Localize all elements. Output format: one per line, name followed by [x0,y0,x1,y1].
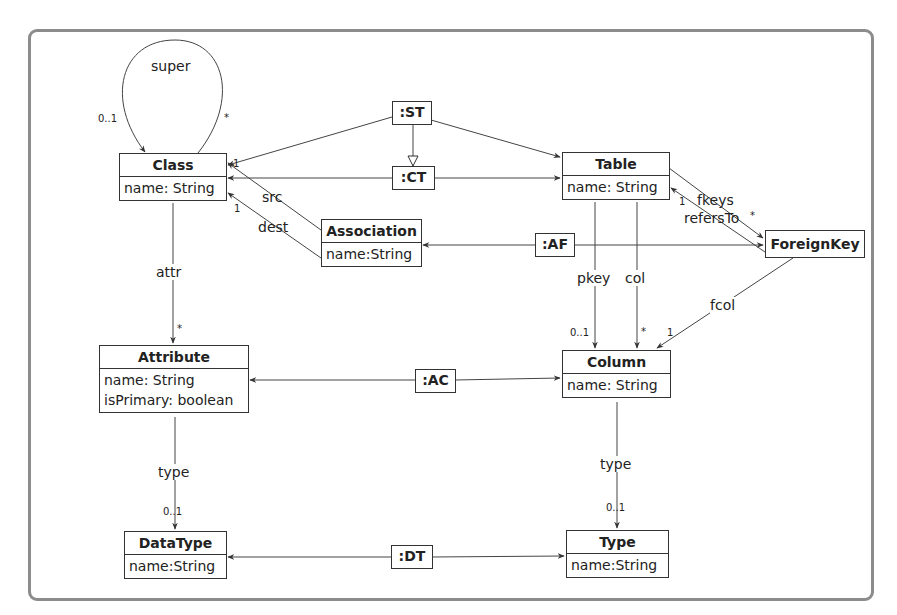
edge-label-super: super [151,58,190,74]
multiplicity-refersTo: 1 [679,196,685,208]
edge-label-attr: attr [156,264,181,280]
class-attribute: name:String [571,555,664,575]
mapping-node-ct[interactable]: :CT [392,166,435,190]
class-box-class[interactable]: Class name: String [119,153,227,201]
multiplicity-col-type: 0..1 [606,502,625,514]
class-attribute: name:String [326,244,417,264]
class-box-foreignkey[interactable]: ForeignKey [765,230,865,258]
class-name: Attribute [100,346,248,369]
multiplicity-pkey: 0..1 [570,327,589,339]
multiplicity-dest: 1 [234,203,240,215]
edge-label-refersTo: refersTo [684,210,739,226]
multiplicity-attr: * [177,323,182,335]
edge-label-col: col [625,270,645,286]
class-name: DataType [125,532,226,555]
class-attribute: name: String [124,178,222,198]
multiplicity-src: 1 [233,158,239,170]
class-name: ForeignKey [766,231,864,257]
class-attribute: name: String [567,177,665,197]
mapping-node-af[interactable]: :AF [535,233,575,257]
mapping-node-dt[interactable]: :DT [391,545,433,569]
class-attribute: isPrimary: boolean [104,390,244,410]
class-name: Column [563,351,670,374]
class-name: Association [322,220,421,243]
diagram-edges [0,0,897,615]
mapping-node-st[interactable]: :ST [392,101,432,125]
multiplicity-col: * [641,326,646,338]
edge-label-fcol: fcol [710,297,735,313]
class-name: Table [563,153,669,176]
multiplicity-fkeys: * [750,210,755,222]
class-box-table[interactable]: Table name: String [562,152,670,200]
edge-label-fkeys: fkeys [697,192,734,208]
edge-label-dest: dest [258,219,288,235]
edge-label-src: src [262,189,282,205]
edge-label-pkey: pkey [577,270,610,286]
class-attribute: name: String [104,370,244,390]
class-box-column[interactable]: Column name: String [562,350,671,398]
multiplicity-super-tgt: * [224,112,229,124]
edge-label-attr-type: type [158,464,189,480]
multiplicity-fcol: 1 [667,327,673,339]
class-attribute: name: String [567,375,666,395]
class-box-datatype[interactable]: DataType name:String [124,531,227,579]
class-box-type[interactable]: Type name:String [566,530,669,578]
class-attribute: name:String [129,556,222,576]
edge-label-col-type: type [600,456,631,472]
class-name: Type [567,531,668,554]
multiplicity-attr-type: 0..1 [163,506,182,518]
mapping-node-ac[interactable]: :AC [415,369,456,393]
class-name: Class [120,154,226,177]
class-box-association[interactable]: Association name:String [321,219,422,267]
multiplicity-super-src: 0..1 [98,113,117,125]
class-box-attribute[interactable]: Attribute name: String isPrimary: boolea… [99,345,249,413]
